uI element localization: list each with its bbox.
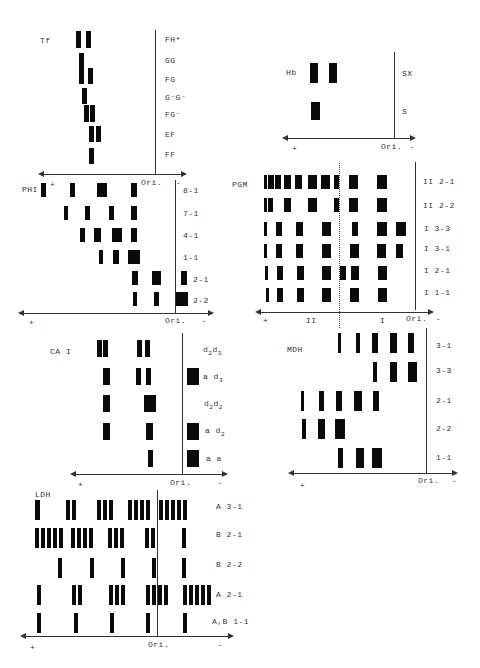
gel-band (103, 368, 110, 385)
gel-band (96, 126, 101, 142)
gel-band (109, 206, 114, 220)
gel-band (146, 613, 150, 633)
gel-band (329, 63, 337, 83)
gel-band (338, 448, 343, 468)
gel-band (171, 500, 175, 520)
hb-row-label: S (402, 107, 407, 116)
phi-arrow-right-icon (208, 310, 214, 316)
gel-band (121, 585, 125, 605)
gel-band (350, 244, 359, 258)
hb-axis (284, 138, 412, 139)
ldh-arrow-left-icon (20, 633, 26, 639)
gel-band (114, 528, 118, 548)
tf-row-label: FH* (165, 35, 181, 44)
gel-band (318, 419, 325, 439)
gel-band (187, 423, 199, 440)
pgm-plus: + (263, 316, 268, 325)
gel-band (189, 585, 193, 605)
gel-band (181, 271, 187, 285)
mdh-row-label: 3-3 (436, 366, 452, 375)
gel-band (115, 585, 119, 605)
gel-band (85, 206, 90, 220)
gel-band (352, 222, 358, 236)
ca1-plus: + (78, 480, 83, 489)
pgm-arrow-left-icon (255, 309, 261, 315)
gel-band (264, 222, 267, 236)
gel-band (58, 558, 62, 578)
ca1-origin-line (182, 333, 183, 475)
gel-band (264, 198, 267, 212)
phi-origin-label: Ori. (165, 316, 186, 325)
gel-band (322, 222, 331, 236)
gel-band (201, 585, 205, 605)
phi-arrow-left-icon (18, 310, 24, 316)
gel-band (137, 340, 142, 357)
gel-band (35, 528, 39, 548)
gel-band (72, 585, 76, 605)
gel-band (264, 175, 267, 189)
gel-band (276, 244, 282, 258)
gel-band (103, 395, 110, 412)
gel-band (349, 175, 358, 189)
gel-band (340, 266, 346, 280)
gel-band (177, 500, 181, 520)
gel-band (35, 500, 40, 520)
gel-band (152, 558, 156, 578)
gel-band (146, 500, 150, 520)
gel-band (82, 88, 87, 104)
gel-band (90, 558, 94, 578)
gel-band (322, 244, 331, 258)
gel-band (41, 528, 45, 548)
gel-band (131, 228, 137, 242)
gel-band (152, 585, 156, 605)
gel-band (390, 333, 397, 353)
pgm-origin-line (415, 162, 416, 310)
gel-band (97, 500, 101, 520)
gel-band (41, 183, 46, 197)
tf-minus: - (176, 178, 181, 187)
gel-band (37, 585, 41, 605)
gel-band (88, 68, 93, 84)
gel-band (158, 585, 162, 605)
mdh-row-label: 1-1 (436, 453, 452, 462)
gel-band (308, 175, 317, 189)
ldh-axis (24, 636, 230, 637)
gel-band (268, 175, 274, 189)
pgm-title: PGM (232, 180, 248, 189)
tf-row-label: GG (165, 56, 176, 65)
ldh-row-label: A,B 1-1 (212, 617, 249, 626)
gel-band (301, 391, 304, 411)
gel-band (128, 250, 140, 264)
gel-band (146, 585, 150, 605)
pgm-zone-i: I (380, 316, 385, 325)
gel-band (79, 68, 84, 84)
gel-band (109, 500, 113, 520)
ca1-arrow-left-icon (70, 471, 76, 477)
gel-band (83, 528, 87, 548)
gel-band (94, 228, 101, 242)
tf-plus: + (50, 180, 55, 189)
gel-band (145, 340, 150, 357)
gel-band (97, 183, 107, 197)
phi-plus: + (29, 318, 34, 327)
pgm-zone-ii: II (306, 316, 317, 325)
gel-band (151, 528, 155, 548)
pgm-axis (258, 312, 430, 313)
gel-band (146, 423, 153, 440)
ca1-origin-label: Ori. (170, 478, 191, 487)
gel-band (182, 528, 186, 548)
mdh-origin-label: Ori. (418, 476, 439, 485)
tf-arrow-right-icon (181, 171, 187, 177)
gel-band (53, 528, 57, 548)
mdh-row-label: 2-1 (436, 396, 452, 405)
tf-origin-label: Ori. (141, 178, 162, 187)
gel-band (335, 419, 345, 439)
gel-band (277, 288, 283, 302)
phi-row-label: 2-1 (193, 275, 209, 284)
ca1-title: CA I (50, 347, 71, 356)
ldh-row-label: B 2-1 (216, 530, 243, 539)
gel-band (377, 222, 387, 236)
gel-band (390, 362, 397, 382)
gel-band (207, 585, 211, 605)
gel-band (296, 222, 303, 236)
